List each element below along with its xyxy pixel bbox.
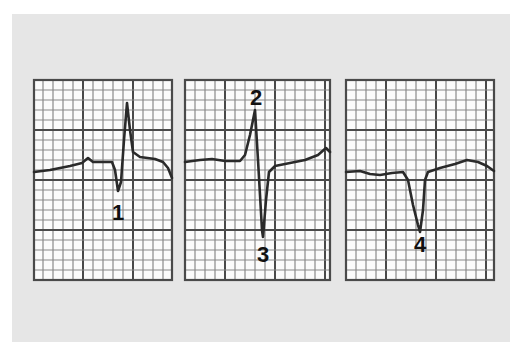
wave-marker-label: 1 [112,200,124,225]
wave-marker-label: 4 [414,232,427,257]
ecg-strip-1: 1 [34,80,172,280]
ecg-figure: 1234 [0,0,530,358]
ecg-strip-3: 4 [346,80,494,280]
wave-marker-label: 2 [250,85,262,110]
wave-marker-label: 3 [257,242,269,267]
ecg-strip-2: 23 [185,80,330,280]
